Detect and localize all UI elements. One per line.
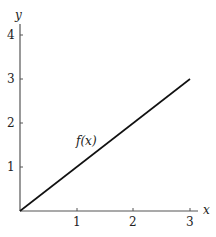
xtick-label-3: 3 [186, 215, 194, 229]
xtick-label-2: 2 [129, 215, 137, 229]
ytick-label-2: 2 [7, 116, 15, 130]
function-line [20, 79, 190, 211]
xtick-label-1: 1 [73, 215, 81, 229]
chart: 1 2 3 4 1 2 3 y x f(x) [0, 0, 216, 237]
function-label: f(x) [75, 134, 97, 148]
ytick-label-4: 4 [7, 28, 15, 42]
ytick-label-3: 3 [7, 72, 15, 86]
x-axis-label: x [203, 203, 210, 217]
ytick-label-1: 1 [7, 160, 15, 174]
y-axis-label: y [14, 8, 22, 22]
